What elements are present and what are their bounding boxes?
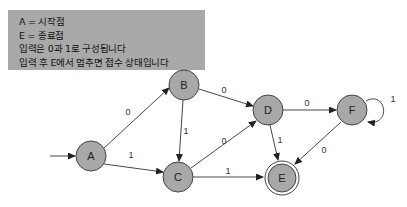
svg-text:0: 0 [221,136,226,146]
svg-text:0: 0 [221,85,226,95]
edge-D-F: 0 [283,98,336,110]
svg-text:1: 1 [277,135,282,145]
edge-A-B: 0 [104,88,169,148]
svg-text:1: 1 [225,166,230,176]
state-node-C: C [163,162,193,192]
svg-text:0: 0 [321,145,326,155]
svg-text:F: F [349,104,356,116]
state-node-D: D [253,95,283,125]
edge-B-D: 0 [199,85,253,106]
state-node-F: F [337,95,367,125]
svg-text:C: C [174,171,182,183]
svg-text:0: 0 [125,107,130,117]
state-node-A: A [76,141,106,171]
edge-B-C: 1 [179,100,189,161]
svg-text:B: B [180,79,187,91]
edge-D-E: 1 [270,125,283,160]
svg-text:0: 0 [304,98,309,108]
svg-text:1: 1 [128,150,133,160]
svg-text:A: A [87,150,95,162]
svg-text:1: 1 [390,94,395,104]
state-node-E-accept: E [265,161,299,195]
state-diagram: 0 1 0 1 0 1 0 1 0 1 A B [0,0,407,207]
state-node-B: B [169,70,199,100]
edge-F-F-self-loop: 1 [366,94,396,122]
edge-F-E: 0 [295,122,341,164]
edge-C-E: 1 [193,166,263,177]
edge-C-D: 0 [191,121,256,168]
edge-A-C: 1 [104,150,163,172]
svg-text:E: E [278,172,285,184]
svg-text:D: D [264,104,272,116]
svg-text:1: 1 [183,126,188,136]
